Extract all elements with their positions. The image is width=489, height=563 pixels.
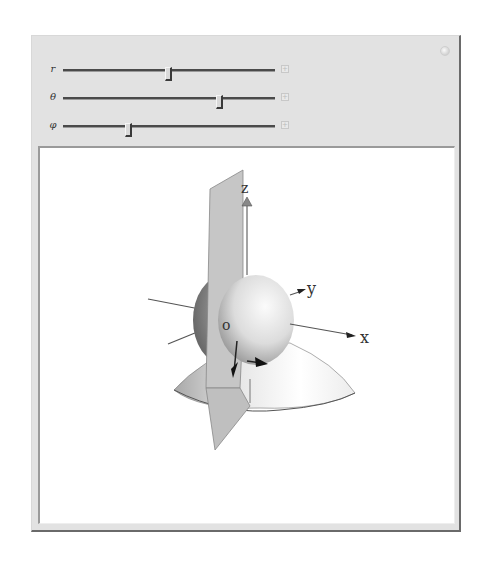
slider-label-phi: φ xyxy=(46,119,60,130)
x-axis-line xyxy=(290,324,352,335)
slider-thumb-r[interactable] xyxy=(165,67,172,81)
slider-row-r: r + xyxy=(32,61,332,81)
z-axis-arrow-icon xyxy=(242,197,252,206)
slider-phi[interactable] xyxy=(63,125,275,128)
y-axis-arrow-icon xyxy=(297,289,306,294)
slider-label-theta: θ xyxy=(46,91,60,102)
3d-graphic[interactable]: z x y o xyxy=(40,148,455,524)
expand-button-phi[interactable]: + xyxy=(281,121,289,129)
slider-r[interactable] xyxy=(63,69,275,72)
slider-label-r: r xyxy=(46,63,60,74)
x-axis-label: x xyxy=(360,328,369,347)
manipulate-panel: r + θ + φ + xyxy=(31,35,461,532)
slider-theta[interactable] xyxy=(63,97,275,100)
expand-button-theta[interactable]: + xyxy=(281,93,289,101)
options-icon[interactable] xyxy=(440,46,450,56)
x-axis-arrow-icon xyxy=(346,332,356,338)
slider-row-phi: φ + xyxy=(32,117,332,137)
origin-label: o xyxy=(222,317,230,333)
half-plane-lower xyxy=(206,388,250,450)
slider-thumb-phi[interactable] xyxy=(125,123,132,137)
slider-thumb-theta[interactable] xyxy=(216,95,223,109)
z-axis-label: z xyxy=(241,180,248,196)
y-axis-label: y xyxy=(306,279,316,298)
expand-button-r[interactable]: + xyxy=(281,65,289,73)
plot-area[interactable]: z x y o xyxy=(38,146,455,524)
slider-row-theta: θ + xyxy=(32,89,332,109)
